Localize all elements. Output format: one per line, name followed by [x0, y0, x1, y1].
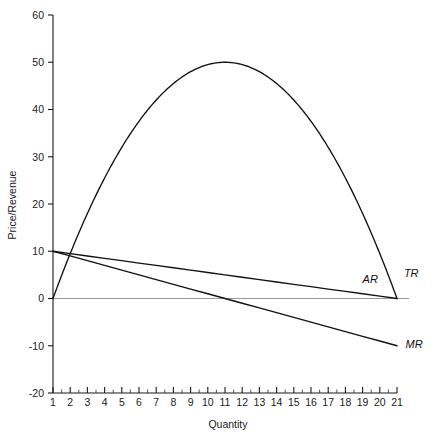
curve-ar	[53, 251, 397, 298]
x-axis-tick-label: 11	[220, 396, 231, 408]
x-axis-tick-label: 12	[236, 396, 248, 408]
y-axis-tick-label: 40	[32, 103, 44, 115]
series-label-tr: TR	[404, 267, 419, 279]
x-axis-tick-label: 10	[202, 396, 214, 408]
y-axis-tick-label: 10	[32, 245, 44, 257]
series-label-ar: AR	[362, 273, 378, 285]
y-axis-tick-label: -10	[29, 340, 44, 352]
y-axis-title: Price/Revenue	[6, 170, 18, 239]
x-axis-tick-label: 9	[188, 396, 194, 408]
curve-tr	[53, 62, 397, 298]
x-axis-tick-label: 17	[322, 396, 334, 408]
x-axis-tick-label: 8	[170, 396, 176, 408]
x-axis-tick-label: 20	[374, 396, 386, 408]
y-axis-tick-label: 0	[38, 292, 44, 304]
y-axis-tick-label: 50	[32, 56, 44, 68]
y-axis-group: -20-100102030405060	[29, 9, 53, 399]
x-axis-title: Quantity	[208, 418, 248, 430]
x-axis-tick-label: 2	[67, 396, 73, 408]
series-label-mr: MR	[406, 338, 423, 350]
series-labels-group: ARMRTR	[362, 267, 423, 350]
y-axis-tick-label: 60	[32, 9, 44, 21]
x-axis-tick-label: 18	[340, 396, 352, 408]
x-axis-tick-label: 1	[50, 396, 56, 408]
x-axis-tick-label: 19	[357, 396, 369, 408]
x-axis-tick-label: 14	[271, 396, 283, 408]
y-axis-tick-label: 20	[32, 198, 44, 210]
x-axis-tick-label: 21	[391, 396, 403, 408]
y-axis-tick-label: -20	[29, 387, 44, 399]
x-axis-tick-label: 15	[288, 396, 300, 408]
x-axis-tick-label: 13	[254, 396, 266, 408]
chart-canvas: -20-100102030405060 12345678910111213141…	[0, 0, 435, 434]
x-axis-group: 123456789101112131415161718192021	[50, 387, 403, 408]
x-axis-tick-label: 16	[305, 396, 317, 408]
revenue-curves-chart: -20-100102030405060 12345678910111213141…	[0, 0, 435, 434]
x-axis-tick-label: 5	[119, 396, 125, 408]
curves-group	[53, 62, 397, 346]
x-axis-tick-label: 6	[136, 396, 142, 408]
x-axis-tick-label: 7	[153, 396, 159, 408]
y-axis-tick-label: 30	[32, 151, 44, 163]
x-axis-tick-label: 4	[102, 396, 108, 408]
x-axis-tick-label: 3	[84, 396, 90, 408]
